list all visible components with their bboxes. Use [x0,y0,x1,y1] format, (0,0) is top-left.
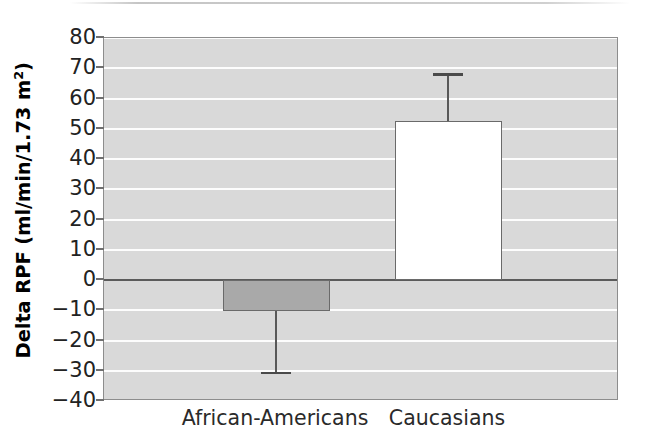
gridline [104,309,617,311]
plot-area [103,37,618,400]
y-axis-title: Delta RPF (ml/min/1.73 m2) [0,0,46,420]
y-axis-tick-mark [96,369,104,371]
gridline [104,67,617,69]
y-axis-tick-mark [96,278,104,280]
error-bar-stem [447,74,449,121]
x-axis-label-african-americans: African-Americans [182,408,369,429]
bar-african-americans[interactable] [223,280,330,311]
y-axis-tick-label: −10 [52,299,96,320]
y-axis-tick-label: −40 [52,390,96,411]
y-axis-tick-mark [96,36,104,38]
y-axis-tick-label: 70 [69,57,96,78]
y-axis-tick-label: 0 [83,269,96,290]
figure-canvas: Delta RPF (ml/min/1.73 m2) 8070605040302… [0,0,650,444]
y-axis-tick-mark [96,399,104,401]
y-axis-tick-mark [96,308,104,310]
y-axis-tick-mark [96,218,104,220]
y-axis-tick-mark [96,97,104,99]
zero-line [104,279,617,281]
gridline [104,158,617,160]
error-bar-cap [433,73,463,76]
gridline [104,370,617,372]
gridline [104,37,617,39]
y-axis-tick-label: 40 [69,148,96,169]
y-axis-tick-labels: 80706050403020100−10−20−30−40 [46,0,96,444]
y-axis-tick-label: 60 [69,87,96,108]
y-axis-tick-label: 30 [69,178,96,199]
y-axis-tick-mark [96,127,104,129]
y-axis-tick-label: 10 [69,238,96,259]
gridline [104,219,617,221]
y-axis-tick-label: 80 [69,27,96,48]
gridline [104,249,617,251]
y-axis-title-tail: ) [12,62,35,71]
gridline [104,340,617,342]
y-axis-tick-mark [96,248,104,250]
bar-caucasians[interactable] [395,121,502,280]
gridline [104,188,617,190]
y-axis-tick-label: 50 [69,117,96,138]
y-axis-tick-label: −20 [52,329,96,350]
gridline [104,98,617,100]
error-bar-cap [261,372,291,375]
y-axis-tick-mark [96,339,104,341]
y-axis-tick-label: −30 [52,359,96,380]
y-axis-title-superscript: 2 [11,71,26,80]
gridline [104,128,617,130]
y-axis-tick-label: 20 [69,208,96,229]
error-bar-stem [275,311,277,373]
y-axis-tick-mark [96,66,104,68]
y-axis-tick-mark [96,157,104,159]
x-axis-label-caucasians: Caucasians [389,408,505,429]
y-axis-title-text: Delta RPF (ml/min/1.73 m [12,80,35,359]
scan-artifact-line [70,2,630,4]
y-axis-tick-mark [96,187,104,189]
